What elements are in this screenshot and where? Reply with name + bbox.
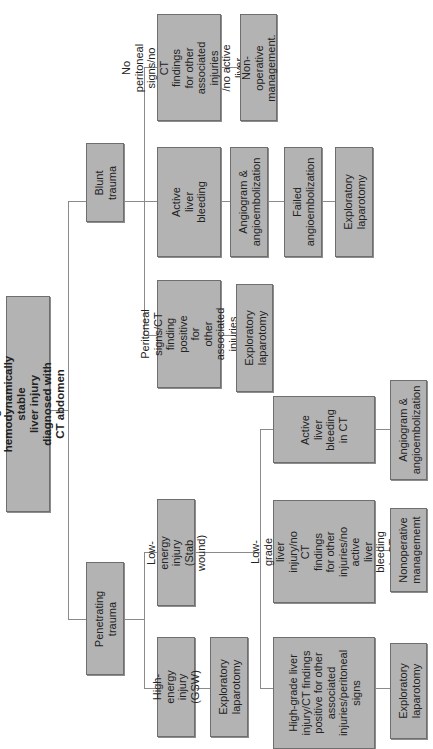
node-root: Management of hemodynamically stable liv… <box>6 296 50 512</box>
node-low-active-bleeding-ct: Active liver bleeding in CT <box>273 396 375 463</box>
node-low-grade-nonoperative: Nonoperative managememt <box>390 508 427 592</box>
node-blunt-exploratory-2: Exploratory laparotomy <box>335 147 373 257</box>
node-label: Exploratory laparotomy <box>396 663 421 719</box>
connector <box>268 201 284 202</box>
node-label: Management of hemodynamically stable liv… <box>0 356 67 453</box>
node-label: Nonoperative managememt <box>396 516 421 583</box>
connector <box>322 201 335 202</box>
node-high-energy: High-energy injury (GSW) <box>157 637 195 737</box>
node-label: Exploratory laparotomy <box>217 659 242 715</box>
connector <box>260 688 273 689</box>
node-blunt-active-bleeding: Active liver bleeding <box>157 147 221 257</box>
node-label: Blunt trauma <box>93 165 118 199</box>
connector <box>68 201 86 202</box>
node-label: Active liver bleeding in CT <box>299 405 349 455</box>
node-label: Peritoneal signs/CT finding positive for… <box>139 308 239 361</box>
node-blunt-nonoperative: Non-operative management. <box>240 14 277 121</box>
node-label: Angiogram & angioembolization <box>237 158 262 247</box>
node-high-grade-exploratory: Exploratory laparotomy <box>390 643 427 739</box>
connector <box>375 688 390 689</box>
node-low-angiogram: Angiogram & angioembolization <box>390 380 427 480</box>
node-blunt-no-signs: No peritoneal signs/no CT findings for o… <box>157 14 221 121</box>
connector <box>68 619 86 620</box>
flowchart: Management of hemodynamically stable liv… <box>0 0 433 749</box>
connector <box>375 429 390 430</box>
node-high-grade: High-grade liver injury/CT findings posi… <box>273 637 375 749</box>
node-label: High-energy injury (GSW) <box>151 670 201 704</box>
node-low-energy: Low-energy injury (Stab wound) <box>157 499 195 606</box>
node-label: Exploratory laparotomy <box>242 310 267 366</box>
node-label: Low-energy injury (Stab wound) <box>145 534 208 570</box>
connector <box>124 201 157 202</box>
node-label: Low-grade liver injury/no CT findings fo… <box>249 526 399 576</box>
node-blunt-trauma: Blunt trauma <box>86 143 124 222</box>
node-label: Active liver bleeding <box>170 181 208 223</box>
connector <box>68 201 69 619</box>
node-label: High-grade liver injury/CT findings posi… <box>287 650 362 736</box>
node-blunt-peritoneal-signs: Peritoneal signs/CT finding positive for… <box>157 280 221 388</box>
node-blunt-exploratory-1: Exploratory laparotomy <box>236 284 273 392</box>
node-label: Non-operative management. <box>240 34 278 101</box>
node-label: No peritoneal signs/no CT findings for o… <box>120 41 258 94</box>
connector <box>124 619 144 620</box>
node-blunt-angiogram: Angiogram & angioembolization <box>230 147 268 257</box>
node-label: Angiogram & angioembolization <box>396 386 421 475</box>
node-label: Exploratory laparotomy <box>342 174 367 230</box>
node-label: Failed angioembolization <box>291 158 316 247</box>
node-blunt-failed-angio: Failed angioembolization <box>284 147 322 257</box>
connector <box>260 429 273 430</box>
node-label: Penetrating trauma <box>93 590 118 646</box>
node-low-grade: Low-grade liver injury/no CT findings fo… <box>273 500 375 603</box>
node-high-energy-exploratory: Exploratory laparotomy <box>210 637 248 737</box>
node-penetrating-trauma: Penetrating trauma <box>86 562 124 675</box>
connector <box>144 552 145 688</box>
